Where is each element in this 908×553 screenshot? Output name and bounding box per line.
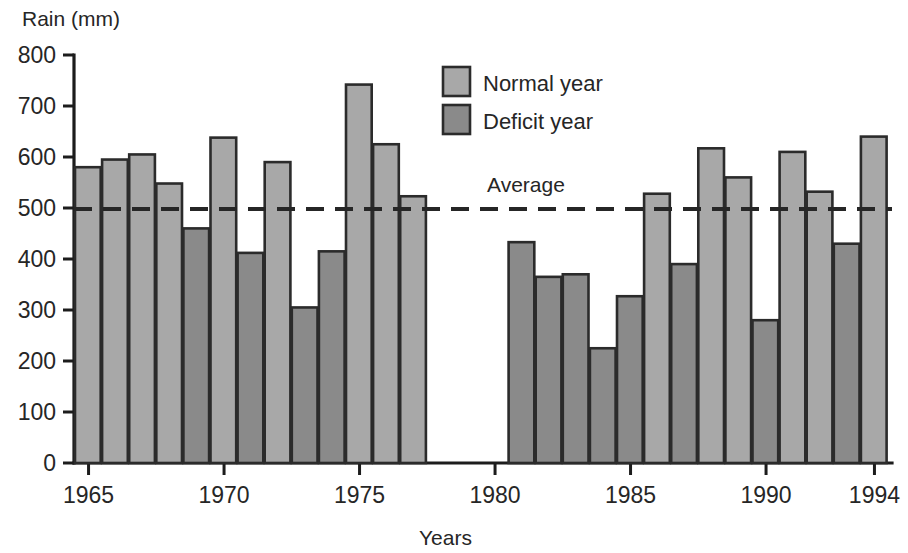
y-axis-title: Rain (mm) <box>22 7 120 30</box>
bar <box>400 196 426 463</box>
x-axis-ticks: 1965197019751980198519901994 <box>63 463 900 508</box>
y-tick-label: 400 <box>18 246 56 272</box>
y-tick-label: 200 <box>18 348 56 374</box>
legend-swatch-deficit-year <box>443 105 470 134</box>
y-tick-label: 800 <box>18 42 56 68</box>
bar <box>671 264 697 463</box>
average-label: Average <box>487 173 565 196</box>
bar <box>834 244 860 463</box>
bar <box>644 194 670 463</box>
x-axis-title: Years <box>419 526 472 549</box>
bar <box>75 167 101 463</box>
bar <box>725 177 751 463</box>
legend-label-deficit-year: Deficit year <box>483 109 593 134</box>
bar <box>238 253 264 463</box>
bars-group <box>75 85 887 463</box>
x-tick-label: 1975 <box>334 482 385 508</box>
bar <box>509 242 535 463</box>
y-axis-ticks: 0100200300400500600700800 <box>18 42 74 476</box>
y-tick-label: 700 <box>18 93 56 119</box>
y-tick-label: 500 <box>18 195 56 221</box>
bar <box>183 228 209 463</box>
x-tick-label: 1965 <box>63 482 114 508</box>
bar <box>861 137 887 463</box>
legend-swatch-normal-year <box>443 67 470 96</box>
y-tick-label: 100 <box>18 399 56 425</box>
x-tick-label: 1970 <box>198 482 249 508</box>
x-tick-label: 1985 <box>605 482 656 508</box>
bar <box>590 348 616 463</box>
bar <box>698 148 724 463</box>
bar <box>807 192 833 463</box>
x-tick-label: 1980 <box>469 482 520 508</box>
bar <box>617 296 643 463</box>
bar <box>373 144 399 463</box>
bar <box>319 251 345 463</box>
bar <box>536 277 562 463</box>
bar <box>292 307 318 463</box>
bar <box>346 85 372 463</box>
y-tick-label: 600 <box>18 144 56 170</box>
y-tick-label: 300 <box>18 297 56 323</box>
bar <box>102 160 128 463</box>
x-tick-label: 1990 <box>740 482 791 508</box>
legend: Normal year Deficit year <box>443 67 603 134</box>
bar <box>753 320 779 463</box>
chart-canvas: Rain (mm) 0100200300400500600700800 1965… <box>0 0 908 553</box>
bar <box>563 274 589 463</box>
bar <box>211 138 237 463</box>
y-tick-label: 0 <box>43 450 56 476</box>
x-tick-label: 1994 <box>849 482 900 508</box>
rainfall-bar-chart: Rain (mm) 0100200300400500600700800 1965… <box>0 0 908 553</box>
bar <box>156 184 182 463</box>
legend-label-normal-year: Normal year <box>483 71 603 96</box>
bar <box>780 152 806 463</box>
bar <box>129 154 155 463</box>
